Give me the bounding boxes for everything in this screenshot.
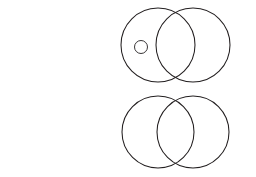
venn-diagram-top: [121, 8, 230, 82]
circle-b-top: [156, 8, 230, 82]
circle-b-bottom: [157, 96, 229, 168]
venn-diagrams-canvas: [0, 0, 256, 177]
mark-ring-top: [135, 41, 148, 54]
venn-diagram-bottom: [122, 96, 229, 168]
circle-p-top: [121, 8, 195, 82]
venn-diagram-figure: [0, 0, 256, 177]
circle-p-bottom: [122, 96, 194, 168]
